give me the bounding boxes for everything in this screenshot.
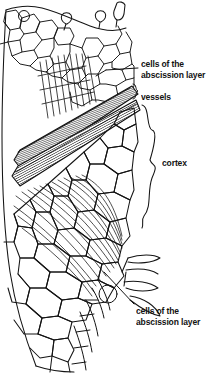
leader-cells-bottom [104,272,134,304]
label-line-2: abscission layer [141,70,205,80]
label-line-1: vessels [141,92,171,102]
label-cortex: cortex [162,158,187,169]
trichome-cells [61,2,125,30]
figure-canvas: cells of theabscission layer vessels cor… [0,0,216,376]
label-line-1: cells of the [136,306,179,316]
label-cells-of-abscission-layer-bottom: cells of theabscission layer [136,306,200,327]
section-outline [2,6,126,372]
leader-cells-top-tail [96,70,106,76]
label-line-1: cortex [162,158,187,168]
label-line-2: abscission layer [136,317,200,327]
label-line-1: cells of the [141,59,184,69]
vessel-band [12,86,140,186]
label-vessels: vessels [141,92,171,103]
label-cells-of-abscission-layer-top: cells of theabscission layer [141,59,205,80]
brace-cortex [142,105,155,228]
